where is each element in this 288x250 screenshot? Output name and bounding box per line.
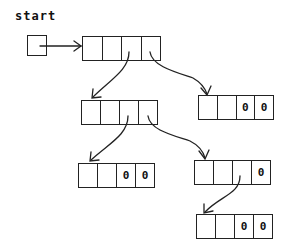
arrowhead-icon: [74, 41, 81, 51]
node-cell: [216, 215, 235, 238]
start-label: start: [15, 9, 56, 23]
node-cell: [195, 161, 214, 184]
node-cell: [103, 37, 123, 60]
node-cell: [79, 164, 98, 187]
node-cell: [214, 161, 233, 184]
node-cell: [82, 101, 101, 124]
node-cell: [83, 37, 103, 60]
node-cell: 0: [255, 96, 273, 119]
arrowhead-icon: [92, 89, 101, 98]
node-cell: [139, 101, 157, 124]
node-cell: 0: [235, 215, 254, 238]
node-bottom-leaf: 0 0: [196, 214, 273, 239]
arrowhead-icon: [90, 152, 99, 161]
node-cell: [218, 96, 237, 119]
node-cell: [101, 101, 120, 124]
node-cell: 0: [252, 161, 270, 184]
node-cell: [142, 37, 161, 60]
node-left-right-child: 0: [194, 160, 271, 185]
node-cell: 0: [237, 96, 256, 119]
node-cell: 0: [136, 164, 154, 187]
node-left-child: [81, 100, 158, 125]
node-right-leaf: 0 0: [198, 95, 274, 120]
arrowhead-icon: [201, 86, 211, 95]
node-cell: 0: [117, 164, 136, 187]
arrowhead-icon: [199, 150, 209, 159]
arrowhead-icon: [204, 204, 213, 213]
node-root: [82, 36, 161, 61]
node-cell: [199, 96, 218, 119]
node-cell: [120, 101, 139, 124]
start-pointer-box: [27, 35, 47, 56]
node-cell: [197, 215, 216, 238]
node-cell: [122, 37, 142, 60]
node-left-left-leaf: 0 0: [78, 163, 155, 188]
node-cell: [233, 161, 252, 184]
node-cell: 0: [254, 215, 272, 238]
node-cell: [98, 164, 117, 187]
